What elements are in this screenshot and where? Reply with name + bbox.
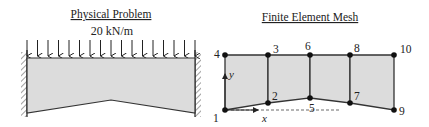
node-1 bbox=[222, 107, 228, 113]
right-fixed-support bbox=[195, 52, 201, 117]
node-label-5: 5 bbox=[309, 102, 315, 114]
node-label-2: 2 bbox=[272, 90, 278, 102]
node-label-10: 10 bbox=[400, 43, 412, 55]
node-9 bbox=[391, 107, 397, 113]
physical-problem: Physical Problem 20 kN/m bbox=[21, 8, 201, 117]
node-2 bbox=[265, 100, 271, 106]
x-axis-label: x bbox=[261, 112, 267, 124]
load-label: 20 kN/m bbox=[91, 24, 134, 38]
y-axis-label: y bbox=[228, 68, 234, 80]
node-8 bbox=[347, 52, 353, 58]
node-label-3: 3 bbox=[273, 43, 279, 55]
node-4 bbox=[222, 52, 228, 58]
node-3 bbox=[265, 52, 271, 58]
beam-shape bbox=[27, 58, 195, 113]
node-label-7: 7 bbox=[354, 90, 360, 102]
mesh-title: Finite Element Mesh bbox=[262, 11, 359, 23]
left-fixed-support bbox=[21, 52, 27, 117]
physical-problem-title: Physical Problem bbox=[71, 8, 152, 21]
node-label-6: 6 bbox=[305, 40, 311, 52]
finite-element-mesh: Finite Element Mesh x y 12345678910 bbox=[213, 11, 412, 124]
node-7 bbox=[347, 100, 353, 106]
node-label-8: 8 bbox=[354, 42, 360, 54]
diagram-canvas: Physical Problem 20 kN/m Finite Element … bbox=[0, 0, 429, 127]
node-10 bbox=[391, 52, 397, 58]
node-label-1: 1 bbox=[213, 112, 219, 124]
distributed-load-arrows bbox=[27, 40, 195, 56]
mesh-element-1 bbox=[225, 55, 268, 110]
node-label-4: 4 bbox=[214, 48, 220, 60]
node-label-9: 9 bbox=[399, 105, 405, 117]
mesh-element-3 bbox=[310, 55, 350, 103]
node-6 bbox=[307, 52, 313, 58]
node-5 bbox=[307, 95, 313, 101]
